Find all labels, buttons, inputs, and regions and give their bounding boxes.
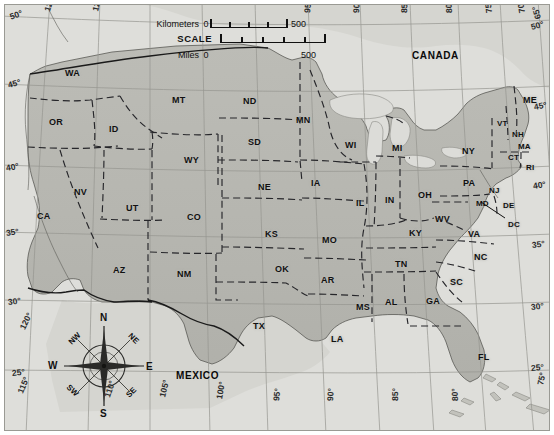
scale-mi-end: 500 bbox=[298, 50, 316, 60]
scale-kilometers-label: Kilometers bbox=[140, 19, 202, 29]
compass-label-s: S bbox=[100, 408, 107, 419]
compass-label-w: W bbox=[48, 360, 57, 371]
compass-rose-graphic bbox=[56, 318, 152, 414]
map-title: UNITED STATES bbox=[0, 0, 554, 6]
scale-kilometers-row: Kilometers 0 500 bbox=[140, 16, 326, 31]
scale-miles-label: Miles bbox=[140, 50, 202, 60]
compass-rose: N NE E SE S SW W NW bbox=[56, 318, 152, 414]
scale-km-end: 500 bbox=[288, 19, 306, 29]
scale-mi-start: 0 bbox=[202, 50, 210, 60]
scale-miles-row: Miles 0 500 bbox=[140, 47, 326, 62]
scale-word-row: SCALE bbox=[140, 31, 326, 46]
scale-bar: Kilometers 0 500 SCALE bbox=[140, 16, 326, 62]
us-reference-map: UNITED STATES Kilometers 0 500 SCALE bbox=[0, 0, 554, 435]
scale-km-start: 0 bbox=[202, 19, 210, 29]
scale-km-bar bbox=[210, 19, 288, 28]
compass-label-n: N bbox=[100, 312, 107, 323]
scale-miles-bar bbox=[220, 34, 326, 43]
scale-label: SCALE bbox=[140, 33, 216, 44]
compass-label-e: E bbox=[146, 361, 153, 372]
